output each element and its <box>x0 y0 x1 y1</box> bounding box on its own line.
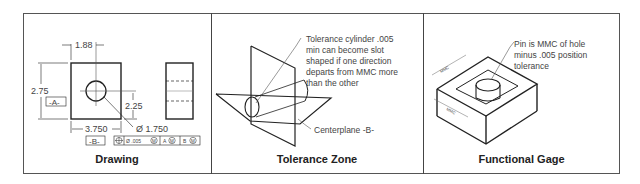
dim-label: MMC <box>439 65 450 74</box>
svg-text:M: M <box>170 139 174 144</box>
callout-line: shaped if one direction <box>306 56 392 66</box>
dim-hole-y: 2.25 <box>125 101 143 111</box>
dim-hole-x: 1.88 <box>75 40 93 50</box>
callout-line: departs from MMC more <box>306 67 398 77</box>
fcf-datum-b: B <box>183 138 187 144</box>
callout-line: tolerance <box>514 61 549 71</box>
callout-line: than the other <box>306 78 359 88</box>
drawing-panel <box>38 42 200 145</box>
datum-b: -B- <box>89 137 100 146</box>
caption-tolerance-zone: Tolerance Zone <box>211 153 423 165</box>
dim-hole-dia: Ø 1.750 <box>136 124 168 134</box>
svg-text:M: M <box>191 139 195 144</box>
callout-line: Pin is MMC of hole <box>514 39 586 49</box>
centerplane-label: Centerplane -B- <box>314 125 374 135</box>
datum-a: -A- <box>49 98 60 107</box>
callout-line: minus .005 position <box>514 50 588 60</box>
tolerance-cylinder <box>245 97 259 117</box>
gage-recess <box>456 70 518 104</box>
caption-drawing: Drawing <box>23 153 211 165</box>
gage-pin <box>476 79 500 91</box>
callout-line: min can become slot <box>306 45 385 55</box>
fcf-tolerance: Ø .005 <box>126 138 141 144</box>
caption-functional-gage: Functional Gage <box>423 153 620 165</box>
svg-text:M: M <box>152 139 156 144</box>
dim-height: 2.75 <box>31 86 49 96</box>
fcf-datum-a: A <box>163 138 167 144</box>
dim-label: MMC <box>446 106 457 115</box>
dim-width: 3.750 <box>85 124 108 134</box>
callout-line: Tolerance cylinder .005 <box>306 34 394 44</box>
